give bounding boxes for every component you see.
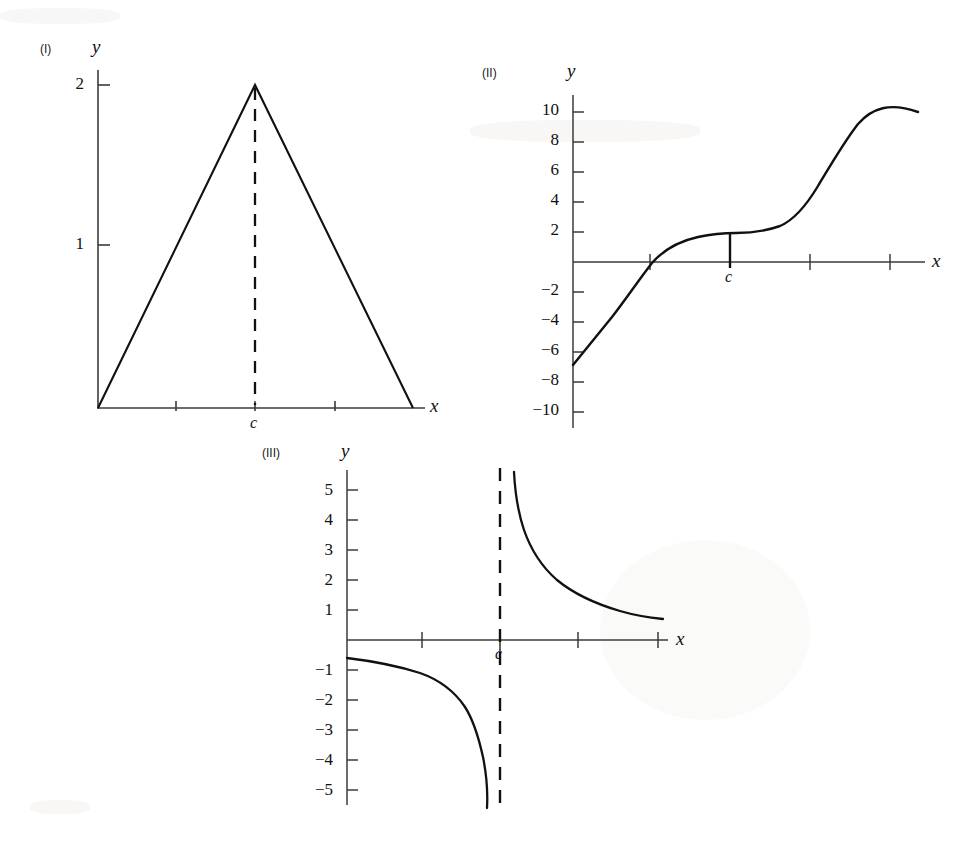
figure-root: (I) y x 2 1 c (II) y x 10 8 6 4 2 −2 −4 … xyxy=(0,0,957,847)
panel3-right-branch xyxy=(514,472,663,619)
panel2-axes xyxy=(573,95,925,428)
panel1-axes xyxy=(98,70,425,411)
panel2-curve xyxy=(573,107,918,365)
panel3-left-branch xyxy=(347,658,487,808)
plot-canvas xyxy=(0,0,957,847)
panel3-axes xyxy=(347,470,668,805)
